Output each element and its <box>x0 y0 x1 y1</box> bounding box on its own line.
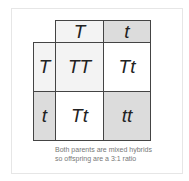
cell-TT: TT <box>55 42 104 92</box>
left-header-T: T <box>33 42 56 92</box>
cell-Tt-1: Tt <box>103 42 151 92</box>
caption: Both parents are mixed hybrids so offspr… <box>55 145 175 163</box>
top-header-t: t <box>103 20 151 43</box>
caption-line-1: Both parents are mixed hybrids <box>55 145 175 154</box>
cell-Tt-2: Tt <box>55 91 104 141</box>
cell-tt: tt <box>103 91 151 141</box>
caption-line-2: so offspring are a 3:1 ratio <box>55 154 175 163</box>
top-header-T: T <box>55 20 104 43</box>
left-header-t: t <box>33 91 56 141</box>
